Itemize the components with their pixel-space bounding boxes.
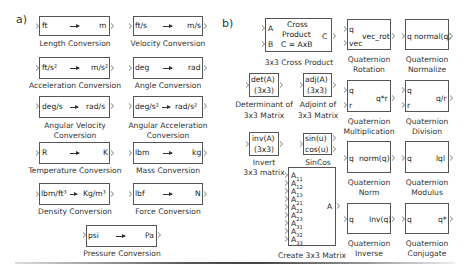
block-caption-line2: Normalize — [408, 65, 446, 75]
output-port-cos[interactable] — [333, 146, 337, 152]
block-line2: cos(u) — [305, 145, 329, 154]
to-unit: rad/s — [86, 102, 105, 111]
block-caption: Mass Conversion — [136, 166, 200, 176]
output-port[interactable] — [204, 65, 208, 71]
block-caption-line1: Quaternion — [406, 55, 448, 65]
output-port[interactable] — [111, 191, 115, 197]
arrow-icon — [70, 194, 77, 195]
input-label: r — [407, 101, 410, 110]
block-caption-line2: 3x3 matrix — [243, 168, 284, 178]
arrow-icon — [70, 153, 79, 154]
output-label: lql — [436, 154, 445, 163]
output-port[interactable] — [280, 82, 284, 88]
output-port[interactable] — [333, 82, 337, 88]
input-port-a31[interactable] — [285, 220, 289, 226]
input-port-a21[interactable] — [285, 196, 289, 202]
to-unit: N — [195, 189, 201, 198]
input-label: q — [349, 25, 354, 34]
from-unit: deg/s — [42, 102, 63, 111]
arrow-icon — [163, 194, 172, 195]
from-unit: ft/s — [135, 21, 147, 30]
output-port[interactable] — [392, 216, 396, 222]
from-unit: deg/s² — [135, 102, 159, 111]
from-unit: R — [42, 148, 47, 157]
output-label: norm(q) — [359, 154, 390, 163]
to-unit: rad — [188, 63, 201, 72]
input-label: q — [349, 215, 354, 224]
block-caption-line1: Quaternion — [406, 239, 448, 249]
block-line1: sin(u) — [305, 134, 327, 143]
block-title-line2: Product — [282, 30, 311, 39]
output-port[interactable] — [204, 23, 208, 29]
from-unit: lbf — [135, 189, 145, 198]
to-unit: kg — [192, 148, 201, 157]
output-port[interactable] — [450, 95, 454, 101]
block-caption-line2: Division — [412, 127, 442, 137]
block-caption-line1: Adjoint of — [300, 100, 336, 110]
block-caption-line1: Determinant of — [235, 100, 293, 110]
output-port[interactable] — [204, 150, 208, 156]
output-port[interactable] — [204, 191, 208, 197]
output-port[interactable] — [392, 33, 396, 39]
block-caption-line2: Modulus — [411, 188, 443, 198]
input-port-a23[interactable] — [285, 212, 289, 218]
block-caption-line1: Quaternion — [348, 239, 390, 249]
output-port[interactable] — [392, 155, 396, 161]
output-label-c: C — [322, 32, 327, 41]
output-port[interactable] — [450, 33, 454, 39]
block-caption-line1: Quaternion — [348, 117, 390, 127]
block-line2: (3x3) — [254, 86, 274, 95]
arrow-icon — [162, 107, 170, 108]
block-caption-line2: Inverse — [355, 249, 383, 259]
input-port-a22[interactable] — [285, 204, 289, 210]
output-port[interactable] — [450, 216, 454, 222]
output-port[interactable] — [111, 23, 115, 29]
output-port[interactable] — [337, 203, 341, 209]
block-line1: det(A) — [251, 75, 275, 84]
to-unit: Kg/m³ — [83, 189, 106, 198]
input-label: q — [349, 86, 354, 95]
block-title-line3: C = AxB — [281, 40, 312, 49]
output-port[interactable] — [111, 65, 115, 71]
block-caption-line1: Quaternion — [348, 55, 390, 65]
input-port-a32[interactable] — [285, 228, 289, 234]
output-port[interactable] — [204, 103, 208, 109]
block-caption-line1: Invert — [253, 158, 275, 168]
block-caption-line2: Conversion — [54, 131, 97, 141]
arrow-icon — [70, 68, 79, 69]
input-label-a: A — [268, 24, 273, 33]
to-unit: m — [99, 21, 106, 30]
block-caption-line1: Quaternion — [348, 178, 390, 188]
output-port[interactable] — [450, 155, 454, 161]
to-unit: K — [103, 148, 108, 157]
block-caption-line2: Norm — [359, 188, 380, 198]
input-label: vec — [349, 39, 362, 48]
input-port-a12[interactable] — [285, 180, 289, 186]
block-caption-line1: Angular Acceleration — [128, 121, 207, 131]
input-port-a11[interactable] — [285, 172, 289, 178]
block-caption: Pressure Conversion — [83, 249, 160, 259]
output-label: normal(q) — [414, 32, 451, 41]
block-caption: Length Conversion — [39, 39, 110, 49]
output-port[interactable] — [158, 232, 162, 238]
to-unit: rad/s² — [175, 102, 197, 111]
input-label: r — [349, 101, 352, 110]
output-port[interactable] — [111, 103, 115, 109]
output-port-sin[interactable] — [333, 135, 337, 141]
block-caption-line1: Quaternion — [406, 178, 448, 188]
output-port[interactable] — [280, 141, 284, 147]
arrow-icon — [163, 153, 172, 154]
input-port-a13[interactable] — [285, 188, 289, 194]
output-port[interactable] — [111, 150, 115, 156]
block-caption-line2: Conjugate — [408, 249, 447, 259]
input-label: q — [349, 154, 354, 163]
input-label: q — [407, 86, 412, 95]
from-unit: ft — [42, 21, 48, 30]
output-port[interactable] — [333, 33, 337, 39]
block-caption: Temperature Conversion — [28, 166, 121, 176]
block-caption: Acceleration Conversion — [29, 81, 121, 91]
output-label: Inv(q) — [369, 215, 391, 224]
from-unit: lbm/ft³ — [41, 189, 66, 198]
input-port-a33[interactable] — [285, 236, 289, 242]
output-port[interactable] — [392, 95, 396, 101]
